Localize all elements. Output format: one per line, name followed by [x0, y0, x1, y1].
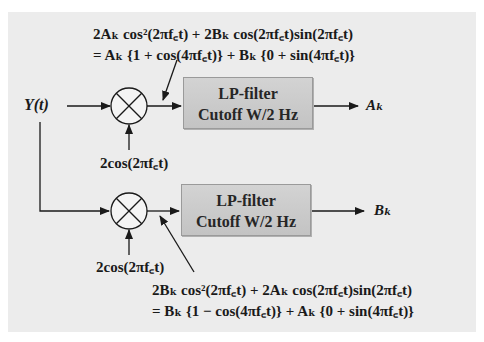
bottom-equation-line1: 2Bₖ cos²(2πf꜀t) + 2Aₖ cos(2πf꜀t)sin(2πf꜀…	[152, 280, 412, 300]
top-oscillator-label: 2cos(2πf꜀t)	[100, 153, 168, 173]
input-label: Y(t)	[24, 96, 49, 114]
bottom-oscillator-label: 2cos(2πf꜀t)	[96, 257, 164, 277]
bottom-output-label: Bₖ	[374, 201, 392, 219]
top-lp-filter-block: LP-filter Cutoff W/2 Hz	[183, 77, 313, 129]
top-equation-line1: 2Aₖ cos²(2πf꜀t) + 2Bₖ cos(2πf꜀t)sin(2πf꜀…	[93, 24, 353, 44]
input-branch-wire	[40, 122, 109, 211]
top-equation-pointer	[163, 60, 177, 100]
top-filter-cutoff: Cutoff W/2 Hz	[184, 104, 312, 125]
bottom-lp-filter-block: LP-filter Cutoff W/2 Hz	[181, 184, 311, 236]
top-equation-line2: = Aₖ {1 + cos(4πf꜀t)} + Bₖ {0 + sin(4πf꜀…	[93, 45, 355, 65]
top-filter-title: LP-filter	[184, 83, 312, 104]
bottom-filter-cutoff: Cutoff W/2 Hz	[182, 211, 310, 232]
bottom-filter-title: LP-filter	[182, 190, 310, 211]
top-output-label: Aₖ	[366, 96, 384, 114]
bottom-equation-line2: = Bₖ {1 − cos(4πf꜀t)} + Aₖ {0 + sin(4πf꜀…	[152, 301, 414, 321]
